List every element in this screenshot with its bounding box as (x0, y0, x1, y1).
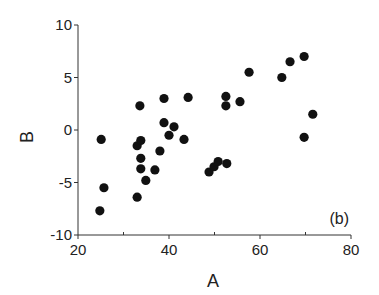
x-tick-label: 60 (252, 241, 269, 258)
y-axis-label: B (17, 131, 37, 143)
data-point (141, 176, 150, 185)
data-point (159, 94, 168, 103)
data-point (159, 118, 168, 127)
data-point (99, 183, 108, 192)
y-ticks: -10-50510 (50, 16, 78, 243)
x-tick-label: 20 (70, 241, 87, 258)
x-ticks: 20406080 (70, 232, 360, 258)
data-point (285, 57, 294, 66)
axes (78, 25, 351, 235)
data-points (95, 52, 317, 216)
data-point (308, 110, 317, 119)
data-point (222, 159, 231, 168)
data-point (136, 164, 145, 173)
data-point (221, 92, 230, 101)
x-tick-label: 40 (161, 241, 178, 258)
data-point (300, 133, 309, 142)
x-tick-label: 80 (343, 241, 360, 258)
data-point (133, 193, 142, 202)
y-tick-label: 0 (64, 121, 72, 138)
data-point (169, 122, 178, 131)
data-point (214, 157, 223, 166)
data-point (136, 136, 145, 145)
data-point (155, 146, 164, 155)
data-point (300, 52, 309, 61)
data-point (184, 93, 193, 102)
panel-label: (b) (329, 210, 349, 227)
data-point (97, 135, 106, 144)
data-point (95, 206, 104, 215)
scatter-chart: 20406080 -10-50510 A B (b) (0, 0, 379, 295)
y-tick-label: -10 (50, 226, 72, 243)
data-point (277, 73, 286, 82)
data-point (221, 101, 230, 110)
data-point (179, 135, 188, 144)
data-point (135, 101, 144, 110)
data-point (150, 165, 159, 174)
data-point (244, 68, 253, 77)
data-point (136, 154, 145, 163)
data-point (235, 97, 244, 106)
data-point (164, 131, 173, 140)
x-axis-label: A (207, 271, 219, 291)
y-tick-label: 5 (64, 69, 72, 86)
y-tick-label: 10 (55, 16, 72, 33)
y-tick-label: -5 (59, 174, 72, 191)
